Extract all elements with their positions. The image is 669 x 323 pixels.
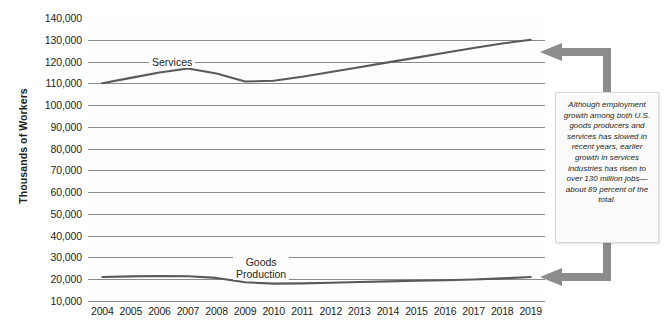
y-tick-label: 80,000: [50, 143, 82, 155]
x-tick-label: 2014: [377, 305, 400, 317]
x-tick-label: 2016: [434, 305, 457, 317]
y-tick-label: 40,000: [50, 230, 82, 242]
series-label-goods-line1: Goods: [246, 256, 277, 268]
x-tick-label: 2010: [262, 305, 285, 317]
plot-area: 140,000130,000120,000110,000100,00090,00…: [88, 18, 545, 301]
y-tick-label: 90,000: [50, 121, 82, 133]
x-tick-label: 2019: [519, 305, 542, 317]
y-tick-label: 60,000: [50, 186, 82, 198]
series-label-services: Services: [149, 56, 195, 68]
y-tick-label: 10,000: [50, 295, 82, 307]
y-tick-label: 130,000: [45, 34, 82, 46]
series-label-goods-line2: Production: [236, 268, 286, 280]
x-tick-label: 2008: [205, 305, 228, 317]
y-tick-label: 70,000: [50, 164, 82, 176]
callout-arrow-top: [540, 43, 607, 92]
x-tick-label: 2013: [348, 305, 371, 317]
y-axis-title: Thousands of Workers: [17, 61, 29, 231]
x-tick-label: 2018: [491, 305, 514, 317]
x-tick-label: 2007: [177, 305, 200, 317]
y-tick-label: 140,000: [45, 12, 82, 24]
y-tick-label: 110,000: [46, 77, 82, 89]
x-tick-label: 2015: [405, 305, 428, 317]
x-tick-label: 2005: [120, 305, 143, 317]
series-label-goods-production: Goods Production: [233, 256, 289, 280]
chart-figure: Thousands of Workers 140,000130,000120,0…: [0, 0, 669, 323]
y-tick-label: 100,000: [45, 99, 82, 111]
x-tick-label: 2012: [320, 305, 343, 317]
x-tick-label: 2006: [148, 305, 171, 317]
x-tick-label: 2017: [462, 305, 485, 317]
x-tick-label: 2011: [291, 305, 313, 317]
x-tick-label: 2004: [91, 305, 114, 317]
x-tick-label: 2009: [234, 305, 257, 317]
y-tick-label: 30,000: [50, 251, 82, 263]
y-tick-label: 20,000: [50, 273, 82, 285]
y-tick-label: 120,000: [45, 56, 82, 68]
callout-text-box: Although employment growth among both U.…: [555, 92, 659, 243]
callout-arrow-bottom: [540, 243, 607, 286]
y-tick-label: 50,000: [50, 208, 82, 220]
gridline: [88, 301, 545, 302]
line-goods-production: [102, 276, 530, 284]
